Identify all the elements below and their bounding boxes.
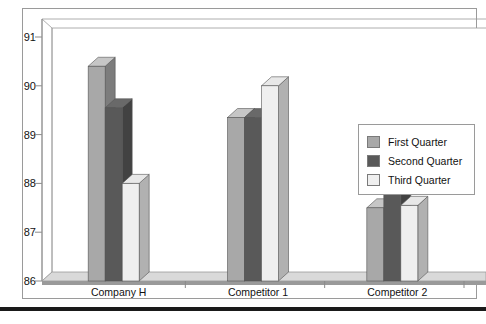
x-category-label: Competitor 2 [367,286,427,298]
y-tick-label: 88 [24,177,36,189]
legend-item[interactable]: First Quarter [368,136,448,148]
bar-front-face [384,183,401,281]
bar-front-face [367,208,384,281]
bar-3d [122,174,149,281]
bar-3d [262,77,289,281]
legend-label: First Quarter [388,136,447,148]
bar-chart: 868788899091 Company HCompetitor 1Compet… [0,0,486,324]
bar-front-face [122,183,139,281]
bar-front-face [228,118,245,281]
chart-screenshot: 868788899091 Company HCompetitor 1Compet… [0,0,486,324]
bar-front-face [105,108,122,281]
y-tick-label: 86 [24,275,36,287]
bar-side-face [418,196,428,281]
legend-swatch [368,156,380,167]
legend-label: Second Quarter [388,155,463,167]
x-axis-category-labels: Company HCompetitor 1Competitor 2 [91,286,428,298]
bar-front-face [262,86,279,281]
bar-front-face [88,66,105,281]
bar-front-face [245,118,262,281]
plot-left-wall [42,19,52,281]
bar-side-face [279,77,289,281]
legend: First QuarterSecond QuarterThird Quarter [359,125,475,195]
bottom-rule [0,307,486,311]
y-tick-label: 90 [24,80,36,92]
legend-label: Third Quarter [388,174,451,186]
plot-floor-front [42,281,486,285]
bar-front-face [401,205,418,281]
legend-swatch [368,175,380,186]
bar-3d [401,196,428,281]
legend-swatch [368,137,380,148]
y-tick-label: 89 [24,129,36,141]
x-category-label: Competitor 1 [228,286,288,298]
x-category-label: Company H [91,286,146,298]
bar-side-face [139,174,149,281]
y-tick-label: 91 [24,31,36,43]
y-tick-label: 87 [24,226,36,238]
